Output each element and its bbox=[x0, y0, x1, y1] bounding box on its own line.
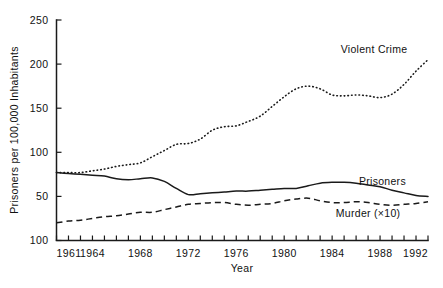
x-tick-label: 1984 bbox=[320, 247, 345, 259]
y-tick-label: 250 bbox=[30, 14, 49, 26]
y-axis-title: Prisoners per 100,000 Inhabitants bbox=[8, 46, 20, 214]
line-chart-svg: 25020015010050100 1961196419681972197619… bbox=[0, 0, 443, 288]
x-tick-label: 1964 bbox=[80, 247, 105, 259]
y-tick-label: 100 bbox=[30, 234, 49, 246]
series-line-violent-crime bbox=[57, 60, 429, 173]
x-tick-label: 1980 bbox=[272, 247, 297, 259]
series-inline-labels: Violent CrimePrisonersMurder (×10) bbox=[336, 43, 408, 219]
y-tick-label: 100 bbox=[30, 146, 49, 158]
x-tick-label: 1988 bbox=[368, 247, 393, 259]
series-label-prisoners: Prisoners bbox=[359, 175, 406, 187]
chart-figure: 25020015010050100 1961196419681972197619… bbox=[0, 0, 443, 288]
x-tick-label: 1992 bbox=[403, 247, 428, 259]
x-tick-label: 1976 bbox=[224, 247, 249, 259]
y-tick-label: 150 bbox=[30, 102, 49, 114]
y-tick-label: 200 bbox=[30, 58, 49, 70]
y-axis-tick-labels: 25020015010050100 bbox=[30, 14, 49, 247]
x-tick-label: 1961 bbox=[57, 247, 82, 259]
x-axis-tick-labels: 196119641968197219761980198419881992 bbox=[57, 247, 429, 259]
y-tick-label: 50 bbox=[36, 190, 48, 202]
series-label-murder-10: Murder (×10) bbox=[336, 207, 401, 219]
x-axis-title: Year bbox=[231, 262, 254, 274]
data-series-group bbox=[57, 60, 429, 223]
x-tick-label: 1972 bbox=[176, 247, 201, 259]
x-tick-label: 1968 bbox=[128, 247, 153, 259]
series-label-violent-crime: Violent Crime bbox=[341, 43, 408, 55]
